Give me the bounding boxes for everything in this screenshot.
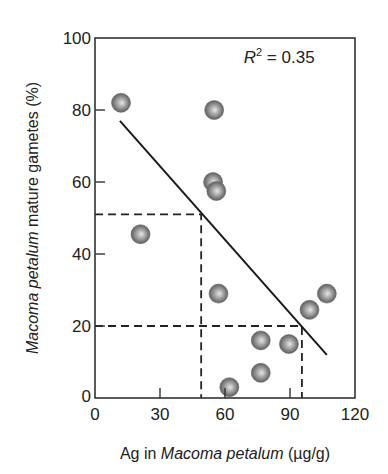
data-point (207, 182, 226, 201)
reference-dashed-lines (95, 214, 302, 398)
y-tick-label: 0 (82, 387, 91, 406)
data-point (220, 378, 239, 397)
data-point (317, 284, 336, 303)
y-axis-title: Macoma petalum mature gametes (%) (24, 82, 41, 354)
y-tick-label: 40 (72, 245, 91, 264)
x-tick-label: 120 (341, 405, 369, 424)
x-tick-label: 0 (90, 405, 99, 424)
data-point (251, 363, 270, 382)
data-point (279, 335, 298, 354)
x-tick-label: 60 (216, 405, 235, 424)
data-point (300, 300, 319, 319)
y-tick-label: 80 (72, 101, 91, 120)
data-point (112, 93, 131, 112)
data-point (251, 331, 270, 350)
scatter-chart: 0306090120 020406080100 R2 = 0.35 Ag in … (0, 0, 388, 474)
r-squared-annotation: R2 = 0.35 (244, 46, 315, 67)
y-axis-ticks: 020406080100 (63, 29, 105, 406)
regression-line (120, 121, 327, 355)
data-points (112, 93, 337, 396)
y-tick-label: 20 (72, 317, 91, 336)
data-point (209, 284, 228, 303)
dashed-reference-line (95, 326, 302, 398)
x-axis-title: Ag in Macoma petalum (µg/g) (120, 445, 330, 462)
data-point (131, 225, 150, 244)
data-point (205, 101, 224, 120)
dashed-reference-line (95, 214, 201, 398)
x-tick-label: 90 (281, 405, 300, 424)
x-tick-label: 30 (151, 405, 170, 424)
y-tick-label: 60 (72, 173, 91, 192)
y-tick-label: 100 (63, 29, 91, 48)
